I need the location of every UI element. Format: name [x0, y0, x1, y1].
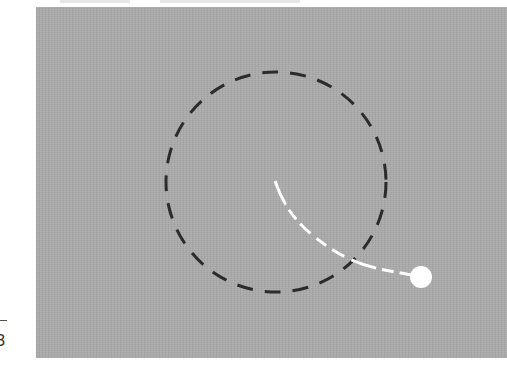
diagram-canvas	[0, 0, 507, 365]
ball	[410, 266, 432, 288]
ball-trajectory-path	[275, 181, 412, 275]
